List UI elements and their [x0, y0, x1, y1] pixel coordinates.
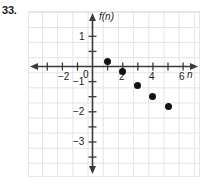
y-axis-arrow-up	[89, 13, 96, 21]
x-tick-label-neg2: −2	[58, 71, 69, 82]
y-tick-label-neg3: −3	[73, 136, 84, 147]
x-tick-label-4: 4	[149, 71, 155, 82]
x-tick-label-6: 6	[179, 71, 185, 82]
data-point	[104, 58, 111, 65]
x-axis-arrow-left	[30, 63, 38, 70]
data-point	[165, 103, 172, 110]
y-tick-label-neg1: −1	[73, 76, 84, 87]
coordinate-graph-figure: −2 0 2 4 6 1 −1 −2 −3 f(n) n	[28, 11, 200, 177]
y-axis-title: f(n)	[99, 11, 114, 22]
x-axis-title: n	[187, 69, 193, 80]
axes-and-ticks	[28, 11, 200, 177]
y-tick-label-1: 1	[79, 31, 85, 42]
problem-number: 33.	[2, 4, 17, 16]
data-point	[119, 68, 126, 75]
y-axis-arrow-down	[89, 166, 96, 174]
y-tick-label-neg2: −2	[73, 106, 84, 117]
